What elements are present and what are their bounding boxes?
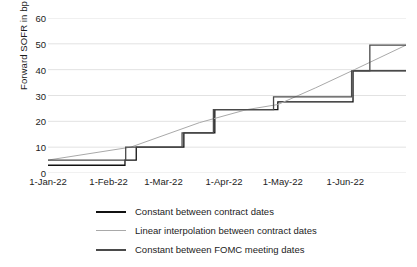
legend-label: Constant between contract dates [135, 206, 274, 217]
plot-area [48, 18, 406, 173]
y-tick-label: 30 [20, 90, 46, 101]
legend-item[interactable]: Constant between FOMC meeting dates [96, 240, 396, 259]
x-tick-label: 1-May-22 [263, 176, 303, 187]
legend-swatch-line-icon [96, 249, 126, 251]
legend-label: Linear interpolation between contract da… [135, 225, 317, 236]
y-tick-label: 60 [20, 13, 46, 24]
x-tick-label: 1-Jun-22 [327, 176, 365, 187]
forward-sofr-chart: Forward SOFR in bp 0102030405060 1-Jan-2… [0, 0, 417, 267]
legend-item[interactable]: Constant between contract dates [96, 202, 396, 221]
legend-swatch-line-icon [96, 230, 126, 231]
chart-legend: Constant between contract datesLinear in… [96, 202, 396, 259]
legend-label: Constant between FOMC meeting dates [135, 244, 305, 255]
x-tick-label: 1-Apr-22 [206, 176, 243, 187]
x-tick-label: 1-Mar-22 [144, 176, 183, 187]
x-axis-tick-labels: 1-Jan-221-Feb-221-Mar-221-Apr-221-May-22… [48, 176, 406, 192]
series-line [48, 71, 406, 165]
y-tick-label: 40 [20, 64, 46, 75]
x-tick-label: 1-Feb-22 [89, 176, 128, 187]
x-tick-label: 1-Jan-22 [29, 176, 67, 187]
y-axis-tick-labels: 0102030405060 [16, 0, 46, 267]
plot-svg [48, 18, 406, 173]
legend-item[interactable]: Linear interpolation between contract da… [96, 221, 396, 240]
y-tick-label: 20 [20, 116, 46, 127]
legend-swatch-line-icon [96, 211, 126, 213]
y-tick-label: 50 [20, 38, 46, 49]
y-tick-label: 10 [20, 142, 46, 153]
